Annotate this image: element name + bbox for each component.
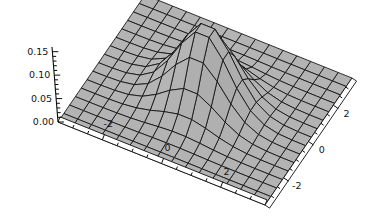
surface-plot-figure: -202-2020.000.050.100.15 <box>0 0 377 223</box>
z-tick-label: 0.00 <box>33 116 54 127</box>
y-tick-label: 0 <box>319 144 325 155</box>
z-tick-label: 0.15 <box>27 46 48 57</box>
z-tick-label: 0.05 <box>31 93 52 104</box>
x-tick-label: -2 <box>104 118 113 129</box>
x-tick-label: 0 <box>164 142 170 153</box>
y-tick-label: 2 <box>344 108 350 119</box>
plot-canvas: -202-2020.000.050.100.15 <box>0 0 377 223</box>
z-tick-label: 0.10 <box>29 69 50 80</box>
y-tick-label: -2 <box>292 180 301 191</box>
x-tick-label: 2 <box>224 166 230 177</box>
